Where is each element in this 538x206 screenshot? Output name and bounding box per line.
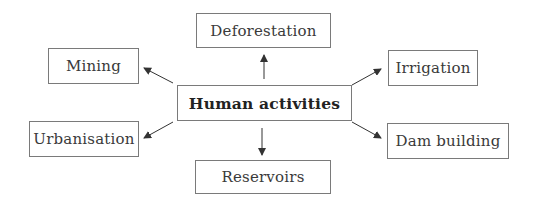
arrow-to-irrigation [352,69,381,85]
node-dam-building: Dam building [387,123,509,159]
node-mining: Mining [48,48,139,84]
node-urbanisation: Urbanisation [29,121,139,157]
node-deforestation: Deforestation [196,13,331,48]
arrow-to-urbanisation [144,122,173,138]
arrow-to-mining [144,68,173,83]
node-reservoirs: Reservoirs [195,160,331,194]
human-activities-diagram: Human activities Deforestation Irrigatio… [0,0,538,206]
node-human-activities: Human activities [177,85,352,121]
node-irrigation: Irrigation [388,50,478,86]
arrow-to-dam-building [352,122,381,138]
